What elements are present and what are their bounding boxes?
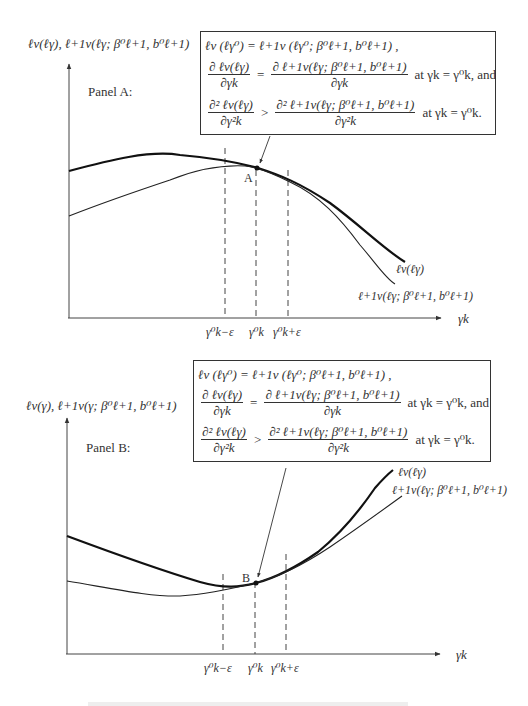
panel-a-condition-first-derivative: ∂ ℓv(ℓγ) ∂γk = ∂ ℓ+1v(ℓγ; β⁰ℓ+1, b⁰ℓ+1) … — [205, 55, 491, 93]
fraction-numerator: ∂² ℓv(ℓγ) — [208, 98, 254, 113]
panel-a-curve-thin — [69, 166, 395, 284]
greater-than-sign: > — [254, 433, 261, 446]
panel-b-tick-minus-eps: γ⁰k−ε — [204, 661, 232, 675]
panel-b-eq3-lhs: ∂² ℓv(ℓγ) ∂γ²k — [201, 425, 247, 454]
panel-a-label: Panel A: — [88, 84, 132, 99]
fraction-denominator: ∂γ²k — [213, 440, 234, 454]
panel-b-callout-arrow — [258, 468, 286, 577]
fraction-numerator: ∂ ℓ+1v(ℓγ; β⁰ℓ+1, b⁰ℓ+1) — [264, 388, 400, 403]
fraction-numerator: ∂² ℓ+1v(ℓγ; β⁰ℓ+1, b⁰ℓ+1) — [268, 425, 408, 440]
panel-a-eq3-lhs: ∂² ℓv(ℓγ) ∂γ²k — [208, 98, 254, 127]
figure-caption-cutoff — [88, 702, 408, 706]
panel-a-eq2-lhs: ∂ ℓv(ℓγ) ∂γk — [208, 60, 250, 89]
panel-b-condition-value-equality: ℓv (ℓγ⁰) = ℓ+1v (ℓγ⁰; β⁰ℓ+1, b⁰ℓ+1) , — [198, 364, 486, 384]
panel-b-eq2-lhs: ∂ ℓv(ℓγ) ∂γk — [201, 388, 243, 417]
fraction-numerator: ∂ ℓv(ℓγ) — [201, 388, 243, 403]
panel-b-condition-first-derivative: ∂ ℓv(ℓγ) ∂γk = ∂ ℓ+1v(ℓγ; β⁰ℓ+1, b⁰ℓ+1) … — [198, 384, 486, 421]
equals-sign: = — [257, 68, 264, 81]
fraction-numerator: ∂ ℓv(ℓγ) — [208, 60, 250, 75]
greater-than-sign: > — [261, 106, 268, 119]
fraction-denominator: ∂γ²k — [335, 113, 356, 127]
panel-a-condition-value-equality: ℓv (ℓγ⁰) = ℓ+1v (ℓγ⁰; β⁰ℓ+1, b⁰ℓ+1) , — [205, 35, 491, 55]
panel-a-condition-second-derivative: ∂² ℓv(ℓγ) ∂γ²k > ∂² ℓ+1v(ℓγ; β⁰ℓ+1, b⁰ℓ+… — [205, 93, 491, 131]
panel-b-condition-second-derivative: ∂² ℓv(ℓγ) ∂γ²k > ∂² ℓ+1v(ℓγ; β⁰ℓ+1, b⁰ℓ+… — [198, 421, 486, 458]
panel-a-curve-thick — [69, 154, 405, 262]
panel-b-eq1-text: ℓv (ℓγ⁰) = ℓ+1v (ℓγ⁰; β⁰ℓ+1, b⁰ℓ+1) , — [198, 368, 392, 381]
panel-a-eq3-rhs: ∂² ℓ+1v(ℓγ; β⁰ℓ+1, b⁰ℓ+1) ∂γ²k — [275, 98, 415, 127]
panel-a-eq2-tail: at γk = γ⁰k, and — [415, 68, 496, 81]
panel-a-condition-box: ℓv (ℓγ⁰) = ℓ+1v (ℓγ⁰; β⁰ℓ+1, b⁰ℓ+1) , ∂ … — [200, 31, 496, 135]
fraction-numerator: ∂² ℓv(ℓγ) — [201, 425, 247, 440]
equals-sign: = — [250, 396, 257, 409]
panel-a-point-label: A — [244, 171, 253, 185]
panel-a-eq2-rhs: ∂ ℓ+1v(ℓγ; β⁰ℓ+1, b⁰ℓ+1) ∂γk — [271, 60, 407, 89]
panel-a-eq1-text: ℓv (ℓγ⁰) = ℓ+1v (ℓγ⁰; β⁰ℓ+1, b⁰ℓ+1) , — [205, 39, 399, 52]
panel-b-eq2-tail: at γk = γ⁰k, and — [408, 396, 489, 409]
panel-b-label: Panel B: — [86, 440, 130, 455]
panel-b-curve-thin — [67, 496, 402, 596]
panel-a-y-axis-label: ℓv(ℓγ), ℓ+1v(ℓγ; β⁰ℓ+1, b⁰ℓ+1) — [28, 36, 189, 51]
fraction-denominator: ∂γk — [331, 75, 348, 89]
panel-a-x-axis-label: γk — [458, 311, 469, 326]
panel-a-curve-label-thick: ℓv(ℓγ) — [396, 262, 424, 276]
panel-a-callout-arrow — [260, 136, 270, 163]
panel-b-point-label: B — [242, 571, 250, 585]
panel-b-curve-label-thin: ℓ+1v(ℓγ; β⁰ℓ+1, b⁰ℓ+1) — [392, 483, 507, 497]
panel-a-tangency-point — [255, 166, 260, 171]
fraction-denominator: ∂γ²k — [328, 440, 349, 454]
panel-b-eq3-rhs: ∂² ℓ+1v(ℓγ; β⁰ℓ+1, b⁰ℓ+1) ∂γ²k — [268, 425, 408, 454]
panel-b-condition-box: ℓv (ℓγ⁰) = ℓ+1v (ℓγ⁰; β⁰ℓ+1, b⁰ℓ+1) , ∂ … — [193, 360, 491, 462]
fraction-denominator: ∂γk — [220, 75, 237, 89]
panel-b-curve-thick — [67, 470, 393, 587]
panel-a-tick-plus-eps: γ⁰k+ε — [273, 325, 301, 339]
panel-b-tangency-point — [254, 581, 259, 586]
panel-a-curve-label-thin: ℓ+1v(ℓγ; β⁰ℓ+1, b⁰ℓ+1) — [358, 289, 473, 303]
panel-b-x-axis-label: γk — [456, 647, 467, 662]
panel-b-eq2-rhs: ∂ ℓ+1v(ℓγ; β⁰ℓ+1, b⁰ℓ+1) ∂γk — [264, 388, 400, 417]
panel-a-tick-gamma0: γ⁰k — [249, 325, 265, 339]
fraction-numerator: ∂² ℓ+1v(ℓγ; β⁰ℓ+1, b⁰ℓ+1) — [275, 98, 415, 113]
fraction-denominator: ∂γk — [324, 403, 341, 417]
fraction-denominator: ∂γ²k — [220, 113, 241, 127]
fraction-denominator: ∂γk — [213, 403, 230, 417]
fraction-numerator: ∂ ℓ+1v(ℓγ; β⁰ℓ+1, b⁰ℓ+1) — [271, 60, 407, 75]
panel-b-curve-label-thick: ℓv(ℓγ) — [398, 465, 426, 479]
panel-b-tick-plus-eps: γ⁰k+ε — [271, 661, 299, 675]
panel-a-eq3-tail: at γk = γ⁰k. — [422, 106, 481, 119]
panel-b-tick-gamma0: γ⁰k — [248, 661, 264, 675]
panel-b-y-axis-label: ℓv(γ), ℓ+1v(γ; β⁰ℓ+1, b⁰ℓ+1) — [26, 398, 177, 413]
panel-b-eq3-tail: at γk = γ⁰k. — [415, 433, 474, 446]
panel-a-tick-minus-eps: γ⁰k−ε — [206, 325, 234, 339]
